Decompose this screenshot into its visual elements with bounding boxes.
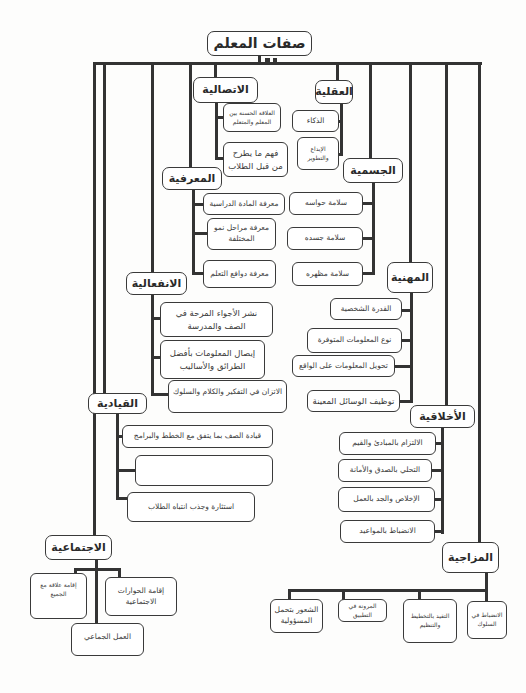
ethical-item-3: الإخلاص والجد بالعمل [338,487,435,512]
emotional-item-1: نشر الأجواء المرحة في الصف والمدرسة [160,302,273,337]
ethical-item-4: الانضباط بالمواعيد [340,520,435,543]
cognitive-item-3: معرفة دوافع التعلم [203,260,276,288]
physical-item-2: سلامة جسده [287,227,363,250]
professional-item-4: توظيف الوسائل المعينة [307,390,400,412]
category-professional: المهنية [387,262,433,293]
temperamental-item-3: التقيد بالتخطيط والتنظيم [403,599,457,643]
category-mental: العقلية [315,80,353,104]
professional-item-1: القدرة الشخصية [330,298,402,320]
temperamental-item-4: الانضباط في السلوك [467,601,507,639]
communicative-item-2: فهم ما يطرح من قبل الطلاب [223,142,288,177]
leadership-item-3: استثارة وجذب انتباه الطلاب [127,492,255,522]
social-item-2: إقامة الحوارات الاجتماعية [105,577,177,616]
physical-item-3: سلامة مظهره [292,262,363,286]
emotional-item-3: الاتزان في التفكير والكلام والسلوك [168,380,287,413]
category-ethical: الأخلاقية [410,405,475,428]
cognitive-item-1: معرفة المادة الدراسية [203,193,285,215]
category-emotional: الانفعالية [126,272,187,295]
ethical-item-1: الالتزام بالمبادئ والقيم [339,432,436,455]
temperamental-item-1: الشعور بتحمل المسؤولية [270,599,323,633]
category-physical: الجسمية [343,158,403,183]
cognitive-item-2: معرفة مراحل نمو المختلفة [207,218,276,250]
communicative-item-1: العلاقة الحسنة بين المعلم والمتعلم [223,103,281,132]
physical-item-1: سلامة حواسه [289,192,363,215]
category-leadership: القيادية [88,393,147,414]
leadership-item-2-empty [135,455,273,486]
category-cognitive: المعرفية [162,167,222,190]
professional-item-3: تحويل المعلومات على الواقع [292,355,395,377]
leadership-item-1: قيادة الصف بما يتفق مع الخطط والبرامج [122,425,273,448]
category-communicative: الاتصالية [193,77,258,103]
temperamental-item-2: المرونة في التطبيق [338,599,387,622]
social-item-3: العمل الجماعي [71,623,144,656]
emotional-item-2: إيصال المعلومات بأفضل الطرائق والأساليب [160,340,265,379]
mental-item-2: الإبداع والتطوير [297,137,339,170]
social-item-1: إقامة علاقة مع الجميع [30,573,87,619]
category-social: الاجتماعية [45,535,112,560]
mental-item-1: الذكاء [292,110,339,132]
professional-item-2: نوع المعلومات المتوفرة [307,328,402,353]
ethical-item-2: التحلي بالصدق والأمانة [338,459,432,482]
root-node-teacher-traits: صفات المعلم [207,31,312,56]
category-temperamental: المزاجية [442,542,499,573]
